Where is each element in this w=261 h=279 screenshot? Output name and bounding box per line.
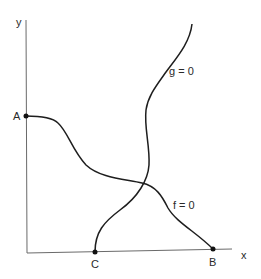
point-a-label: A [13,110,21,122]
y-axis [26,20,27,253]
curve-f [26,116,213,249]
point-b [211,247,216,252]
x-axis [27,249,232,253]
point-c [93,250,98,255]
x-axis-label: x [241,249,247,261]
curve-g [95,24,192,252]
diagram-canvas: y x A B C g = 0 f = 0 [0,0,261,279]
curve-f-label: f = 0 [173,199,195,211]
curve-g-label: g = 0 [169,65,194,77]
point-b-label: B [209,256,216,268]
point-a [24,114,29,119]
point-c-label: C [91,258,99,270]
y-axis-label: y [16,16,22,28]
